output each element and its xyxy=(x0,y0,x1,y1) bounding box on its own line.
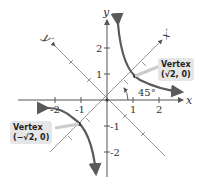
hyperbola-branch-left xyxy=(48,108,96,174)
vertex-coords-right: (√2, 0) xyxy=(161,70,191,80)
y-tick-neg2: -2 xyxy=(110,147,120,158)
leader-right xyxy=(135,66,160,76)
angle-label: 45° xyxy=(138,87,156,98)
vertex-label-left: Vertex (−√2, 0) xyxy=(10,121,52,144)
y-axis-label: y xyxy=(102,6,110,19)
x-tick-neg2: -2 xyxy=(50,104,60,115)
y-tick-1: 1 xyxy=(96,69,102,80)
x-tick-1: 1 xyxy=(130,104,136,115)
y-tick-2: 2 xyxy=(96,43,102,54)
vertex-title-right: Vertex xyxy=(161,60,191,70)
x-prime-label: x′ xyxy=(159,26,175,42)
vertex-coords-left: (−√2, 0) xyxy=(13,133,49,143)
x-axis-label: x xyxy=(186,94,193,107)
hyperbola-diagram: x y x′ y′ -2 -1 1 2 2 1 -1 -2 45° Vertex… xyxy=(0,0,204,187)
angle-arc xyxy=(124,88,128,100)
leader-left xyxy=(55,124,79,128)
y-tick-neg1: -1 xyxy=(110,121,120,132)
y-prime-label: y′ xyxy=(40,30,56,46)
x-tick-neg1: -1 xyxy=(75,104,85,115)
vertex-title-left: Vertex xyxy=(13,123,49,133)
x-tick-2: 2 xyxy=(156,104,162,115)
vertex-label-right: Vertex (√2, 0) xyxy=(158,58,194,81)
diagram-canvas: x y x′ y′ -2 -1 1 2 2 1 -1 -2 45° xyxy=(0,0,204,187)
